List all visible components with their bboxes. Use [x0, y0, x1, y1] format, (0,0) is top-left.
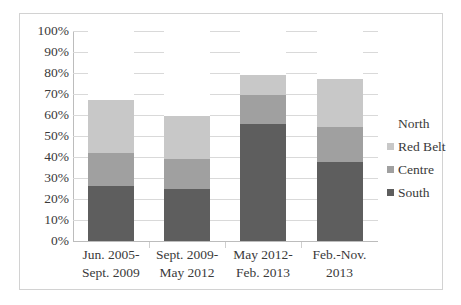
legend-swatch-icon	[387, 143, 394, 150]
bar-segment-red-belt[interactable]	[240, 75, 286, 95]
stacked-bar[interactable]	[164, 31, 210, 241]
bar-segment-north[interactable]	[317, 31, 363, 79]
x-tick-line-1: Jun. 2005-	[73, 246, 149, 264]
x-tick-line-1: May 2012-	[225, 246, 301, 264]
legend-label: North	[398, 117, 430, 131]
legend-swatch-icon	[387, 120, 394, 127]
y-tick-label: 100%	[21, 24, 69, 38]
y-tick-label: 0%	[21, 234, 69, 248]
y-tick-label: 80%	[21, 66, 69, 80]
bar-segment-red-belt[interactable]	[88, 100, 134, 153]
x-tick-line-1: Feb.-Nov.	[301, 246, 378, 264]
bar-segment-north[interactable]	[164, 31, 210, 116]
legend-item-south[interactable]: South	[387, 181, 443, 204]
y-tick-label: 10%	[21, 213, 69, 227]
bar-segment-centre[interactable]	[240, 95, 286, 124]
bar-segment-south[interactable]	[164, 189, 210, 242]
legend-label: Red Belt	[398, 140, 446, 154]
x-tick-line-1: Sept. 2009-	[149, 246, 225, 264]
bar-group	[301, 31, 378, 241]
bar-segment-centre[interactable]	[88, 153, 134, 187]
x-tick-line-2: Sept. 2009	[73, 264, 149, 282]
x-tick-line-2: Feb. 2013	[225, 264, 301, 282]
bar-segment-south[interactable]	[88, 186, 134, 241]
chart-container: 100% 90% 80% 70% 60% 50% 40% 30% 20% 10%…	[19, 13, 443, 290]
legend-item-north[interactable]: North	[387, 112, 443, 135]
stacked-bar[interactable]	[240, 31, 286, 241]
legend-item-centre[interactable]: Centre	[387, 158, 443, 181]
y-tick-label: 70%	[21, 87, 69, 101]
bar-group	[225, 31, 301, 241]
y-tick-label: 20%	[21, 192, 69, 206]
stacked-bar[interactable]	[88, 31, 134, 241]
legend-label: Centre	[398, 163, 434, 177]
plot-area	[73, 31, 378, 241]
x-tick-line-2: May 2012	[149, 264, 225, 282]
y-tick-label: 50%	[21, 129, 69, 143]
y-tick-label: 40%	[21, 150, 69, 164]
legend-label: South	[398, 186, 430, 200]
x-tick-label: Jun. 2005- Sept. 2009	[73, 246, 149, 282]
bar-segment-centre[interactable]	[164, 159, 210, 188]
legend-swatch-icon	[387, 189, 394, 196]
bar-group	[73, 31, 149, 241]
bar-segment-red-belt[interactable]	[164, 116, 210, 159]
bar-segment-centre[interactable]	[317, 127, 363, 163]
bar-segment-north[interactable]	[88, 31, 134, 100]
bar-segment-south[interactable]	[240, 124, 286, 241]
y-tick-label: 30%	[21, 171, 69, 185]
legend-swatch-icon	[387, 166, 394, 173]
x-tick-label: Sept. 2009- May 2012	[149, 246, 225, 282]
bar-group	[149, 31, 225, 241]
x-axis-tick-labels: Jun. 2005- Sept. 2009 Sept. 2009- May 20…	[73, 246, 378, 292]
y-tick-label: 60%	[21, 108, 69, 122]
bar-segment-south[interactable]	[317, 162, 363, 241]
x-tick-line-2: 2013	[301, 264, 378, 282]
chart-legend: North Red Belt Centre South	[387, 112, 443, 204]
bar-segment-north[interactable]	[240, 31, 286, 75]
y-axis-tick-labels: 100% 90% 80% 70% 60% 50% 40% 30% 20% 10%…	[20, 31, 69, 241]
y-tick-label: 90%	[21, 45, 69, 59]
stacked-bar[interactable]	[317, 31, 363, 241]
bar-segment-red-belt[interactable]	[317, 79, 363, 126]
legend-item-red-belt[interactable]: Red Belt	[387, 135, 443, 158]
x-tick-label: May 2012- Feb. 2013	[225, 246, 301, 282]
x-tick-label: Feb.-Nov. 2013	[301, 246, 378, 282]
